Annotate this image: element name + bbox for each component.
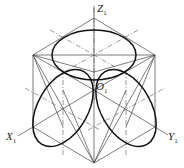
axis-lines: [18, 6, 168, 136]
z-axis-label: Z1: [97, 3, 107, 17]
x-axis-label: X1: [6, 131, 16, 145]
diagram-canvas: [0, 0, 184, 168]
origin-label: O1: [96, 81, 107, 95]
isometric-cube-diagram: Z1 X1 Y1 O1: [0, 0, 184, 168]
y-axis-label: Y1: [168, 131, 178, 145]
